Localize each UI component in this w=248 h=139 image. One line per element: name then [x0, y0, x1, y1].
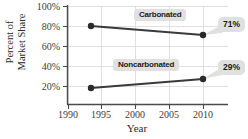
series-line-carbonated: [91, 26, 203, 35]
xtick-label-2000: 2000: [118, 110, 152, 120]
callout-carbonated-value: 71%: [218, 17, 245, 32]
data-point-noncarbonated-1994: [88, 85, 94, 91]
xtick-label-1995: 1995: [84, 110, 118, 120]
series-label-noncarbonated: Noncarbonated: [113, 59, 179, 71]
y-axis-title: Percent of Market Share: [4, 0, 28, 85]
ytick-label-20: 20%: [28, 82, 60, 92]
ytick-label-40: 40%: [28, 62, 60, 72]
ytick-label-80: 80%: [28, 22, 60, 32]
data-point-noncarbonated-2010: [200, 76, 206, 82]
xtick-label-2010: 2010: [186, 110, 220, 120]
data-point-carbonated-1994: [88, 23, 94, 29]
xtick-label-2005: 2005: [152, 110, 186, 120]
y-axis-title-line1: Percent of: [4, 21, 15, 64]
ytick-label-60: 60%: [28, 42, 60, 52]
ytick-label-100: 100%: [28, 2, 60, 12]
y-axis-title-line2: Market Share: [16, 14, 27, 71]
x-axis-title: Year: [67, 122, 207, 134]
series-label-carbonated: Carbonated: [134, 9, 186, 21]
callout-noncarbonated-value: 29%: [218, 60, 245, 75]
data-point-carbonated-2010: [200, 32, 206, 38]
xtick-label-1990: 1990: [51, 110, 85, 120]
market-share-line-chart: 100% 80% 60% 40% 20% 1990 1995 2000 2005…: [0, 0, 248, 139]
